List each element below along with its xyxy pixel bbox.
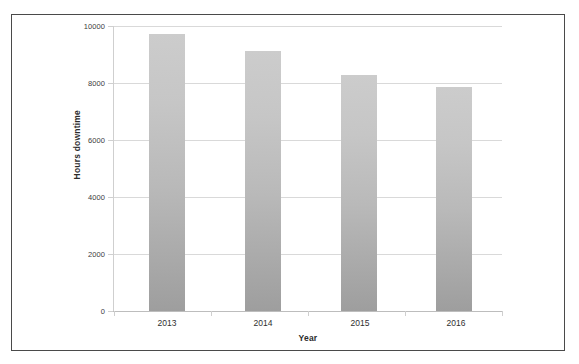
x-tick-mark-right [502,311,503,316]
x-tick-mark-left [114,311,115,316]
y-tick-label-0: 0 [45,307,105,316]
y-tick-label-10000: 10000 [45,22,105,31]
x-tick-label-2016: 2016 [416,318,496,328]
chart-figure: 0 2000 4000 6000 8000 10000 2013 2014 20… [0,0,579,364]
plot-area [114,26,502,311]
x-tick-label-2013: 2013 [127,318,207,328]
y-tick-label-8000: 8000 [45,79,105,88]
x-tick-mark-1 [211,311,212,316]
x-tick-mark-2 [308,311,309,316]
bar-2015 [341,75,377,311]
y-tick-label-4000: 4000 [45,193,105,202]
bar-2013 [149,34,185,311]
x-axis-title: Year [114,333,502,343]
x-tick-label-2014: 2014 [223,318,303,328]
bar-2014 [245,51,281,311]
bar-2016 [436,87,472,311]
x-tick-label-2015: 2015 [320,318,400,328]
y-axis-title: Hours downtime [72,110,86,179]
gridline-10000 [114,26,502,27]
y-tick-label-2000: 2000 [45,250,105,259]
x-tick-mark-3 [405,311,406,316]
